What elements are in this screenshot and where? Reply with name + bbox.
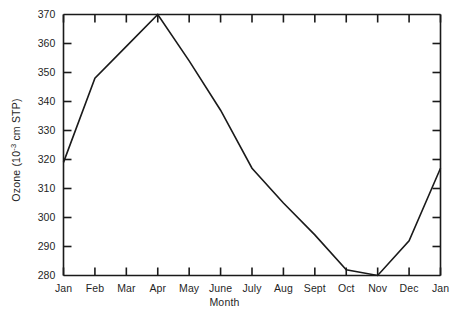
y-axis-tick-label: 370 <box>22 8 56 20</box>
y-axis-tick-label: 320 <box>22 153 56 165</box>
x-axis-tick-label: Jan <box>411 282 454 294</box>
y-axis-tick-label: 340 <box>22 95 56 107</box>
y-axis-ticks <box>64 44 441 247</box>
y-axis-tick-label: 310 <box>22 182 56 194</box>
ozone-data-line <box>64 15 441 276</box>
y-axis-tick-label: 290 <box>22 240 56 252</box>
y-axis-title-suffix: cm STP) <box>10 98 22 143</box>
y-axis-tick-label: 330 <box>22 124 56 136</box>
y-axis-title-exponent: -3 <box>9 144 18 151</box>
y-axis-title: Ozone (10-3 cm STP) <box>10 60 22 240</box>
x-axis-title: Month <box>0 296 449 308</box>
y-axis-title-prefix: Ozone (10 <box>10 151 22 202</box>
y-axis-tick-label: 300 <box>22 211 56 223</box>
y-axis-tick-label: 360 <box>22 37 56 49</box>
y-axis-tick-label: 280 <box>22 269 56 281</box>
y-axis-tick-label: 350 <box>22 66 56 78</box>
